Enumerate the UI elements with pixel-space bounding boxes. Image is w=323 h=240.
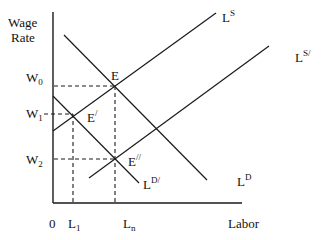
shifted-demand-curve-label: LD/	[143, 175, 160, 192]
svg-text:LS/: LS/	[295, 48, 311, 65]
svg-text:L1: L1	[68, 216, 80, 233]
wage-label-w1: W1	[26, 106, 43, 123]
shifted-supply-curve-label: LS/	[295, 48, 311, 65]
svg-text:LD/: LD/	[143, 175, 160, 192]
origin-label: 0	[49, 216, 56, 231]
shifted-supply-curve	[89, 46, 269, 178]
equilibrium-e-double-prime-label: E//	[128, 152, 141, 169]
svg-text:E/: E/	[87, 108, 98, 125]
supply-curve	[53, 13, 216, 131]
demand-curve-label: LD	[237, 172, 252, 189]
equilibrium-e-prime-label: E/	[87, 108, 98, 125]
svg-text:LS: LS	[222, 8, 235, 25]
labor-market-diagram: Wage Rate W0 W1 W2 0 L1 Ln Labor LS LS/ …	[0, 0, 323, 240]
svg-text:LD: LD	[237, 172, 252, 189]
labor-label-l1: L1	[68, 216, 80, 233]
svg-text:W1: W1	[26, 106, 43, 123]
svg-text:W2: W2	[26, 152, 43, 169]
y-axis-label-line2: Rate	[11, 30, 35, 45]
labor-label-ln: Ln	[123, 216, 136, 233]
svg-text:W0: W0	[26, 70, 43, 87]
svg-text:E//: E//	[128, 152, 141, 169]
equilibrium-e-label: E	[111, 68, 119, 83]
x-axis-label: Labor	[228, 216, 260, 231]
wage-label-w2: W2	[26, 152, 43, 169]
y-axis-label-line1: Wage	[8, 15, 37, 30]
supply-curve-label: LS	[222, 8, 235, 25]
svg-text:Ln: Ln	[123, 216, 136, 233]
wage-label-w0: W0	[26, 70, 43, 87]
